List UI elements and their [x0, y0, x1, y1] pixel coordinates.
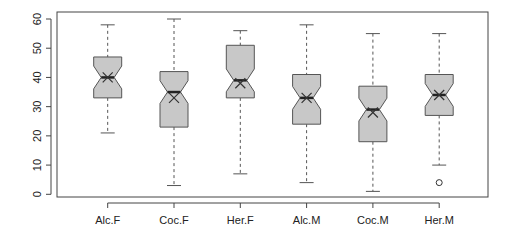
y-tick-label: 30	[31, 101, 43, 113]
plot-frame	[57, 12, 488, 197]
box-alc-f	[94, 25, 122, 133]
x-tick-label: Alc.M	[293, 214, 321, 226]
box-alc-m	[293, 25, 321, 183]
y-axis: 0102030405060	[31, 13, 51, 197]
box-her-m	[425, 34, 453, 186]
notched-box	[226, 45, 254, 98]
y-tick-label: 0	[31, 191, 43, 197]
notched-box	[160, 72, 188, 128]
y-tick-label: 60	[31, 13, 43, 25]
outlier-point	[436, 180, 442, 186]
boxplot-chart: 0102030405060 Alc.FCoc.FHer.FAlc.MCoc.MH…	[0, 0, 514, 238]
notched-box	[293, 75, 321, 125]
y-tick-label: 40	[31, 71, 43, 83]
boxes	[94, 19, 454, 191]
notched-box	[359, 86, 387, 142]
x-tick-label: Alc.F	[95, 214, 120, 226]
x-tick-label: Her.F	[227, 214, 254, 226]
y-tick-label: 10	[31, 159, 43, 171]
x-tick-label: Coc.F	[159, 214, 189, 226]
y-tick-label: 50	[31, 42, 43, 54]
box-coc-f	[160, 19, 188, 186]
box-her-f	[226, 31, 254, 174]
y-tick-label: 20	[31, 130, 43, 142]
x-tick-label: Her.M	[425, 214, 454, 226]
x-tick-label: Coc.M	[357, 214, 389, 226]
x-axis: Alc.FCoc.FHer.FAlc.MCoc.MHer.M	[95, 203, 454, 226]
box-coc-m	[359, 34, 387, 192]
